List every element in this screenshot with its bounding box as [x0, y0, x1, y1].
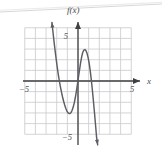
chart-background — [0, 0, 162, 160]
graph-figure: f(x) x 5 −5 −5 5 — [0, 0, 162, 160]
x-axis-label: x — [146, 76, 151, 86]
x-tick-label-positive: 5 — [130, 84, 134, 94]
y-tick-label-positive: 5 — [64, 31, 68, 41]
coordinate-plane-chart: f(x) x 5 −5 −5 5 — [0, 0, 162, 160]
function-label: f(x) — [67, 5, 80, 15]
y-tick-label-negative: −5 — [62, 132, 72, 142]
x-tick-label-negative: −5 — [19, 84, 29, 94]
